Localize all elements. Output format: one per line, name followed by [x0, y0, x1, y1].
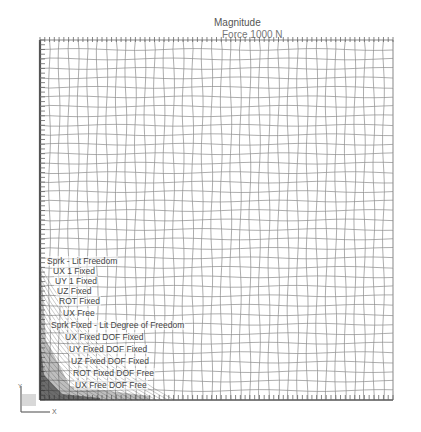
- svg-text:X: X: [52, 408, 57, 415]
- svg-text:Y: Y: [18, 383, 22, 389]
- constraint-label: UX 1 Fixed: [52, 266, 96, 276]
- constraint-label: UX Free DOF Free: [74, 380, 148, 390]
- constraint-label: UZ Fixed: [56, 286, 92, 296]
- constraint-label: ROT Fixed: [58, 296, 101, 306]
- constraint-label: UX Fixed DOF Fixed: [64, 332, 144, 342]
- constraint-label: ROT Fixed DOF Free: [72, 368, 155, 378]
- axis-triad-icon: Y X: [14, 382, 64, 422]
- constraint-label: UY Fixed DOF Fixed: [68, 344, 148, 354]
- fe-mesh: [0, 0, 421, 432]
- constraint-label: Sprk - Lit Freedom: [46, 256, 118, 266]
- coordinate-triad: Y X: [14, 382, 64, 426]
- constraint-label: Sprk Fixed - Lit Degree of Freedom: [50, 320, 185, 330]
- constraint-label: UY 1 Fixed: [54, 276, 98, 286]
- constraint-label: UX Free: [62, 308, 96, 318]
- constraint-label: UZ Fixed DOF Fixed: [70, 356, 150, 366]
